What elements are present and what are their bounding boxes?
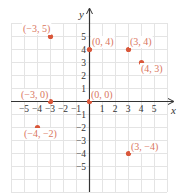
x-tick-label: −5 <box>19 104 29 114</box>
y-tick-label: −3 <box>76 136 86 146</box>
x-tick-label: 1 <box>100 104 105 114</box>
point-label: (3, 4) <box>130 36 152 48</box>
y-tick-label: −5 <box>76 162 86 172</box>
x-tick-label: 4 <box>139 104 144 114</box>
x-tick-label: −2 <box>58 104 68 114</box>
point-label: (−3, 5) <box>23 23 50 35</box>
data-point: (4, 3) <box>139 60 164 75</box>
y-tick-label: 2 <box>81 71 86 81</box>
point-label: (−3, 0) <box>21 89 48 101</box>
coordinate-plane: xy −5−4−3−2−112345−5−4−3−2−112345 (−3, 5… <box>0 0 192 193</box>
data-point: (−4, −2) <box>23 125 58 140</box>
y-tick-label: −4 <box>76 149 86 159</box>
y-tick-label: 1 <box>81 84 86 94</box>
x-tick-label: 5 <box>152 104 157 114</box>
point-label: (4, 3) <box>141 63 163 75</box>
y-axis-label: y <box>78 8 84 20</box>
point-label: (0, 4) <box>92 36 114 48</box>
x-tick-label: −4 <box>32 104 42 114</box>
y-tick-label: −2 <box>76 123 86 133</box>
x-tick-label: 2 <box>113 104 118 114</box>
y-tick-label: 3 <box>81 58 86 68</box>
point-label: (0, 0) <box>91 89 113 101</box>
x-tick-label: −3 <box>45 104 55 114</box>
x-tick-label: 3 <box>126 104 131 114</box>
x-axis-label: x <box>170 104 176 116</box>
plotted-points: (−3, 5)(0, 4)(3, 4)(4, 3)(−3, 0)(0, 0)(−… <box>20 23 164 156</box>
y-tick-label: −1 <box>76 110 86 120</box>
y-tick-label: 4 <box>81 45 86 55</box>
point-label: (3, −4) <box>131 141 158 153</box>
y-tick-label: 5 <box>81 32 86 42</box>
point-label: (−4, −2) <box>24 128 57 140</box>
